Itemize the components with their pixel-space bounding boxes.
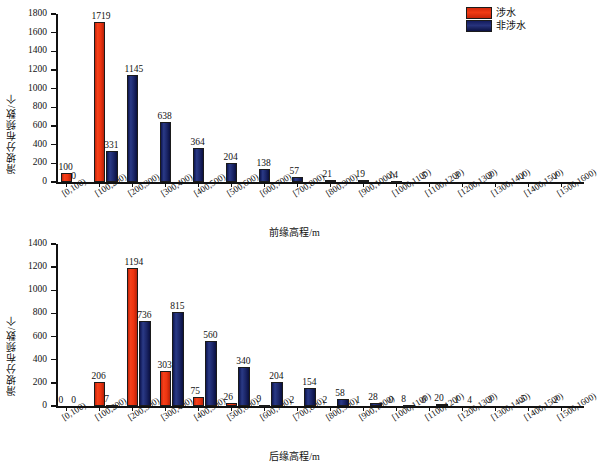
y-axis-line <box>56 14 58 182</box>
bar-非涉水-[1100,1200) <box>436 404 447 406</box>
bar-value-label: 204 <box>269 371 283 381</box>
bar-value-label: 638 <box>158 111 172 121</box>
bar-非涉水-[200,300) <box>127 75 138 182</box>
plot-area-bottom: 0200400600800100012001400[0,100)00[100,2… <box>56 244 584 406</box>
bar-value-label: 206 <box>92 371 106 381</box>
y-axis-tick-label: 1200 <box>17 262 47 271</box>
bar-value-label: 57 <box>290 166 300 176</box>
bar-涉水-[400,500) <box>193 397 204 406</box>
bar-非涉水-[100,200) <box>106 405 117 407</box>
bar-value-label: 58 <box>335 388 345 398</box>
y-axis-tick-label: 400 <box>17 355 47 364</box>
y-axis-tick-label: 1800 <box>17 9 47 18</box>
y-axis-tick-label: 600 <box>17 332 47 341</box>
bar-value-label: 1 <box>356 395 361 405</box>
bar-非涉水-[1000,1100) <box>403 405 414 407</box>
y-axis-tick <box>51 107 56 108</box>
bar-涉水-[300,400) <box>160 371 171 406</box>
bar-value-label: 3 <box>488 171 493 181</box>
bar-value-label: 1194 <box>125 257 144 267</box>
chart-front-edge-elevation: 滑坡分布频数/个 0200400600800100012001400160018… <box>0 0 589 244</box>
bar-value-label: 20 <box>434 393 444 403</box>
bar-value-label: 364 <box>191 137 205 147</box>
bar-非涉水-[600,700) <box>259 169 270 182</box>
y-axis-tick-label: 800 <box>17 102 47 111</box>
bar-value-label: 75 <box>191 386 201 396</box>
bar-value-label: 7 <box>104 394 109 404</box>
bar-value-label: 0 <box>422 395 427 405</box>
bar-非涉水-[900,1000) <box>370 403 381 406</box>
bar-value-label: 8 <box>401 394 406 404</box>
y-axis-tick-label: 800 <box>17 308 47 317</box>
y-axis-tick <box>51 13 56 14</box>
bar-value-label: 303 <box>158 360 172 370</box>
y-axis-tick <box>51 181 56 182</box>
bar-涉水-[600,700) <box>259 405 270 407</box>
bar-涉水-[200,300) <box>127 268 138 406</box>
y-axis-tick <box>51 32 56 33</box>
bar-value-label: 3 <box>455 171 460 181</box>
bar-非涉水-[800,900) <box>337 399 348 406</box>
bar-非涉水-[400,500) <box>193 148 204 182</box>
y-axis-tick <box>51 144 56 145</box>
bar-涉水-[100,200) <box>94 22 105 182</box>
bar-value-label: 2 <box>323 395 328 405</box>
y-axis-tick-label: 0 <box>17 177 47 186</box>
bar-非涉水-[500,600) <box>238 367 249 406</box>
bar-value-label: 204 <box>224 152 238 162</box>
bar-非涉水-[900,1000) <box>358 180 369 182</box>
y-axis-tick <box>51 243 56 244</box>
y-axis-tick <box>51 405 56 406</box>
bar-非涉水-[300,400) <box>172 312 183 406</box>
bar-value-label: 138 <box>257 158 271 168</box>
bar-value-label: 2 <box>554 395 559 405</box>
bar-非涉水-[100,200) <box>106 151 117 182</box>
bar-value-label: 19 <box>356 169 366 179</box>
y-axis-tick-label: 200 <box>17 158 47 167</box>
bar-value-label: 2 <box>290 395 295 405</box>
bar-value-label: 0 <box>71 395 76 405</box>
y-axis-tick-label: 1000 <box>17 84 47 93</box>
bar-value-label: 331 <box>104 140 118 150</box>
bar-非涉水-[600,700) <box>271 382 282 406</box>
y-axis-tick <box>51 88 56 89</box>
bar-value-label: 1 <box>521 171 526 181</box>
y-axis-title-bottom: 滑坡分布频数/个 <box>4 256 19 396</box>
bar-非涉水-[200,300) <box>139 321 150 406</box>
chart-rear-edge-elevation: 滑坡分布频数/个 0200400600800100012001400[0,100… <box>0 232 589 476</box>
bar-非涉水-[300,400) <box>160 122 171 182</box>
y-axis-tick <box>51 313 56 314</box>
bar-非涉水-[400,500) <box>205 341 216 406</box>
y-axis-tick-label: 1200 <box>17 65 47 74</box>
y-axis-tick <box>51 336 56 337</box>
bar-非涉水-[700,800) <box>292 177 303 182</box>
bar-涉水-[0,100) <box>61 173 72 182</box>
plot-area-top: 020040060080010001200140016001800[0,100)… <box>56 14 584 182</box>
bar-value-label: 1719 <box>92 11 111 21</box>
y-axis-tick <box>51 290 56 291</box>
y-axis-tick-label: 200 <box>17 378 47 387</box>
y-axis-tick-label: 1000 <box>17 285 47 294</box>
bar-value-label: 9 <box>257 394 262 404</box>
y-axis-tick <box>51 125 56 126</box>
bar-value-label: 1 <box>455 395 460 405</box>
bar-value-label: 154 <box>302 377 316 387</box>
bar-value-label: 340 <box>236 356 250 366</box>
y-axis-tick-label: 600 <box>17 121 47 130</box>
bar-value-label: 1 <box>554 171 559 181</box>
y-axis-tick <box>51 359 56 360</box>
bar-value-label: 1145 <box>125 64 144 74</box>
y-axis-tick-label: 1600 <box>17 28 47 37</box>
bar-value-label: 0 <box>389 395 394 405</box>
bar-非涉水-[800,900) <box>325 180 336 182</box>
bar-value-label: 4 <box>467 395 472 405</box>
bar-value-label: 21 <box>323 169 333 179</box>
y-axis-line <box>56 244 58 406</box>
bar-非涉水-[500,600) <box>226 163 237 182</box>
y-axis-tick <box>51 51 56 52</box>
y-axis-tick-label: 0 <box>17 401 47 410</box>
bar-value-label: 0 <box>59 395 64 405</box>
bar-value-label: 0 <box>71 171 76 181</box>
y-axis-tick <box>51 382 56 383</box>
bar-非涉水-[1000,1100) <box>391 181 402 183</box>
